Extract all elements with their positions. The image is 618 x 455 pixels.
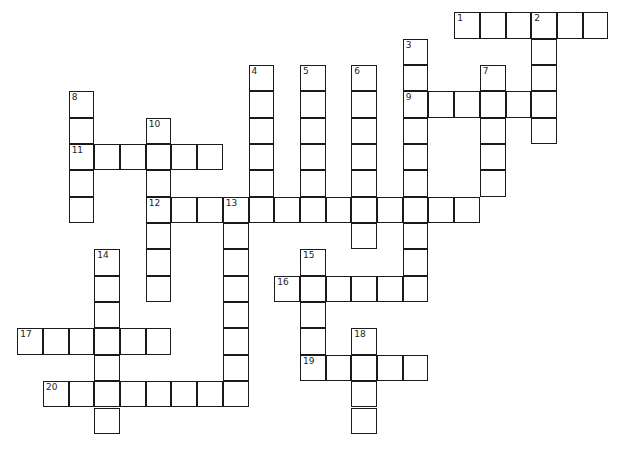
cell-input[interactable] [95,329,119,353]
cell-input[interactable] [172,145,196,169]
cell-input[interactable] [224,329,248,353]
crossword-cell[interactable] [480,91,506,117]
cell-input[interactable] [147,224,171,248]
crossword-cell[interactable] [351,144,377,170]
cell-input[interactable] [327,198,351,222]
crossword-cell[interactable] [146,170,172,196]
cell-input[interactable] [378,356,402,380]
crossword-cell[interactable] [351,170,377,196]
cell-input[interactable] [70,171,94,195]
crossword-cell[interactable] [377,197,403,223]
cell-input[interactable] [507,13,531,37]
cell-input[interactable] [352,329,376,353]
cell-input[interactable] [301,329,325,353]
cell-input[interactable] [224,250,248,274]
crossword-cell[interactable] [249,197,275,223]
crossword-cell[interactable] [69,118,95,144]
crossword-cell[interactable] [300,144,326,170]
crossword-cell[interactable] [351,408,377,434]
cell-input[interactable] [404,277,428,301]
cell-input[interactable] [275,198,299,222]
cell-input[interactable] [481,145,505,169]
cell-input[interactable] [95,250,119,274]
crossword-cell[interactable] [480,12,506,38]
cell-input[interactable] [147,382,171,406]
cell-input[interactable] [532,119,556,143]
cell-input[interactable] [352,145,376,169]
crossword-cell[interactable] [94,328,120,354]
crossword-cell[interactable] [300,91,326,117]
crossword-cell[interactable] [454,91,480,117]
crossword-cell[interactable] [480,118,506,144]
cell-input[interactable] [352,356,376,380]
cell-input[interactable] [250,119,274,143]
cell-input[interactable] [121,329,145,353]
crossword-cell[interactable]: 16 [274,276,300,302]
crossword-cell[interactable]: 19 [300,355,326,381]
crossword-cell[interactable] [94,355,120,381]
crossword-cell[interactable] [197,144,223,170]
cell-input[interactable] [301,303,325,327]
crossword-cell[interactable] [249,170,275,196]
cell-input[interactable] [532,92,556,116]
crossword-cell[interactable] [480,170,506,196]
crossword-cell[interactable] [351,223,377,249]
cell-input[interactable] [198,382,222,406]
crossword-cell[interactable] [171,197,197,223]
cell-input[interactable] [70,119,94,143]
cell-input[interactable] [250,92,274,116]
crossword-cell[interactable]: 20 [43,381,69,407]
cell-input[interactable] [455,13,479,37]
crossword-cell[interactable] [43,328,69,354]
cell-input[interactable] [224,198,248,222]
cell-input[interactable] [352,382,376,406]
crossword-cell[interactable] [249,144,275,170]
cell-input[interactable] [378,198,402,222]
cell-input[interactable] [147,329,171,353]
cell-input[interactable] [352,409,376,433]
cell-input[interactable] [352,119,376,143]
crossword-cell[interactable] [69,170,95,196]
crossword-cell[interactable] [300,118,326,144]
cell-input[interactable] [224,303,248,327]
cell-input[interactable] [481,92,505,116]
cell-input[interactable] [172,198,196,222]
cell-input[interactable] [70,382,94,406]
cell-input[interactable] [147,277,171,301]
crossword-cell[interactable] [403,65,429,91]
cell-input[interactable] [250,145,274,169]
cell-input[interactable] [121,145,145,169]
crossword-cell[interactable] [171,144,197,170]
crossword-cell[interactable] [146,276,172,302]
cell-input[interactable] [198,198,222,222]
crossword-cell[interactable] [249,91,275,117]
cell-input[interactable] [172,382,196,406]
cell-input[interactable] [301,66,325,90]
crossword-cell[interactable] [403,170,429,196]
cell-input[interactable] [147,145,171,169]
crossword-cell[interactable]: 10 [146,118,172,144]
crossword-cell[interactable] [326,355,352,381]
crossword-cell[interactable] [351,381,377,407]
crossword-cell[interactable] [326,276,352,302]
cell-input[interactable] [301,119,325,143]
cell-input[interactable] [352,198,376,222]
cell-input[interactable] [558,13,582,37]
crossword-cell[interactable] [300,302,326,328]
crossword-cell[interactable] [403,355,429,381]
cell-input[interactable] [147,250,171,274]
cell-input[interactable] [404,224,428,248]
crossword-cell[interactable] [94,381,120,407]
crossword-cell[interactable] [94,302,120,328]
cell-input[interactable] [327,277,351,301]
cell-input[interactable] [70,92,94,116]
cell-input[interactable] [584,13,608,37]
crossword-cell[interactable]: 14 [94,249,120,275]
cell-input[interactable] [250,198,274,222]
crossword-cell[interactable] [300,170,326,196]
cell-input[interactable] [18,329,42,353]
crossword-cell[interactable]: 15 [300,249,326,275]
crossword-cell[interactable]: 5 [300,65,326,91]
cell-input[interactable] [507,92,531,116]
crossword-cell[interactable] [531,91,557,117]
